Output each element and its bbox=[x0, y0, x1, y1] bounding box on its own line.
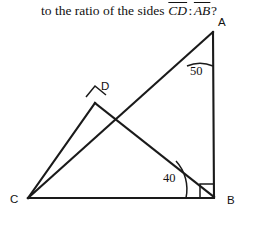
vertex-label-c: C bbox=[10, 193, 18, 205]
angle-arc-b bbox=[176, 161, 187, 198]
angle-value-a: 50 bbox=[190, 64, 203, 78]
side-ab-line bbox=[213, 32, 214, 197]
vertex-label-a: A bbox=[218, 16, 226, 28]
segment-db-line bbox=[95, 103, 214, 197]
vertex-label-b: B bbox=[227, 194, 235, 206]
angle-value-b: 40 bbox=[163, 171, 176, 185]
geometry-figure: A B C D 50 40 bbox=[0, 0, 258, 225]
vertex-label-d: D bbox=[101, 80, 109, 92]
segment-cd-line bbox=[28, 103, 95, 198]
